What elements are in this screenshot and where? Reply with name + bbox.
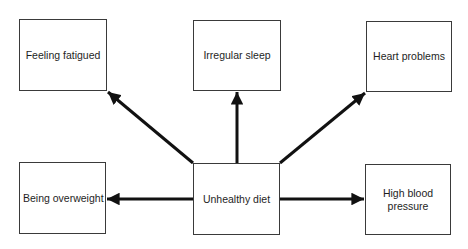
arrow-diet-to-fatigued [108, 92, 193, 163]
node-irregular-sleep: Irregular sleep [193, 20, 281, 91]
node-label: High blood pressure [383, 187, 433, 213]
node-unhealthy-diet: Unhealthy diet [193, 163, 280, 235]
node-label: Feeling fatigued [26, 49, 101, 62]
node-high-blood-pressure: High blood pressure [365, 164, 451, 235]
node-feeling-fatigued: Feeling fatigued [19, 19, 107, 91]
node-label: Irregular sleep [203, 49, 270, 62]
node-being-overweight: Being overweight [19, 162, 106, 234]
node-label: Unhealthy diet [203, 193, 270, 206]
diagram-canvas: Feeling fatigued Irregular sleep Heart p… [0, 0, 468, 249]
node-label: Being overweight [23, 192, 104, 205]
node-heart-problems: Heart problems [366, 21, 452, 92]
arrow-diet-to-heart [280, 93, 365, 163]
node-label: Heart problems [373, 50, 445, 63]
